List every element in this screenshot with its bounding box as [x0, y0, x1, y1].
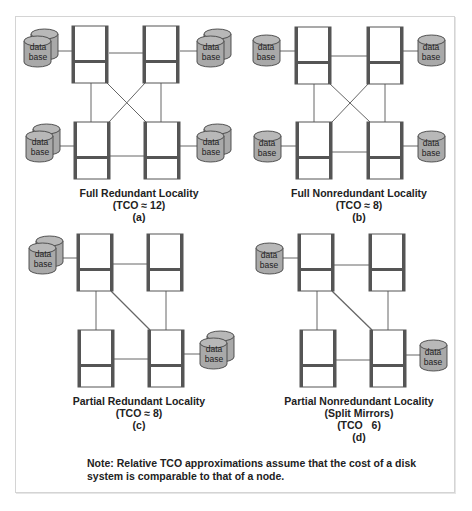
caption-b: Full Nonredundant Locality (TCO ≈ 8) (b) — [284, 187, 434, 223]
caption-subtitle: (Split Mirrors) — [284, 407, 434, 419]
svg-text:base: base — [258, 148, 277, 158]
node-icon — [370, 330, 406, 387]
svg-text:base: base — [422, 52, 441, 62]
footnote-line-2: system is comparable to that of a node. — [87, 470, 416, 483]
panel-a-databases — [24, 29, 231, 162]
svg-text:data: data — [32, 137, 49, 147]
panel-c-databases — [29, 236, 234, 369]
svg-text:base: base — [31, 147, 50, 157]
footnote: Note: Relative TCO approximations assume… — [87, 457, 416, 483]
svg-text:data: data — [258, 42, 275, 52]
node-icon — [369, 234, 405, 291]
node-icon — [147, 234, 183, 291]
svg-text:base: base — [34, 259, 53, 269]
node-icon — [367, 122, 403, 179]
panel-b-databases — [253, 35, 445, 162]
caption-title: Partial Nonredundant Locality — [284, 395, 434, 407]
svg-text:data: data — [206, 344, 223, 354]
node-icon — [77, 234, 113, 291]
caption-label: (c) — [64, 419, 214, 431]
svg-text:base: base — [29, 52, 48, 62]
footnote-line-1: Note: Relative TCO approximations assume… — [87, 457, 416, 470]
svg-text:data: data — [425, 347, 442, 357]
caption-title: Full Nonredundant Locality — [284, 187, 434, 199]
panel-b-nodes — [295, 27, 403, 179]
node-icon — [144, 122, 180, 179]
caption-title: Partial Redundant Locality — [64, 395, 214, 407]
node-icon — [143, 26, 179, 83]
caption-a: Full Redundant Locality (TCO ≈ 12) (a) — [64, 187, 214, 223]
node-icon — [74, 122, 110, 179]
caption-tco: (TCO ≈ 8) — [64, 407, 214, 419]
caption-title: Full Redundant Locality — [64, 187, 214, 199]
node-icon — [72, 26, 108, 83]
svg-text:base: base — [202, 147, 221, 157]
caption-label: (d) — [284, 431, 434, 443]
caption-d: Partial Nonredundant Locality (Split Mir… — [284, 395, 434, 443]
svg-text:data: data — [30, 42, 47, 52]
svg-text:base: base — [202, 52, 221, 62]
node-icon — [148, 330, 184, 387]
node-icon — [295, 27, 331, 84]
node-icon — [298, 234, 334, 291]
svg-text:data: data — [203, 42, 220, 52]
svg-text:base: base — [260, 260, 279, 270]
caption-c: Partial Redundant Locality (TCO ≈ 8) (c) — [64, 395, 214, 431]
svg-text:base: base — [422, 148, 441, 158]
caption-tco: (TCO ≈ 12) — [64, 199, 214, 211]
node-icon — [367, 27, 403, 84]
svg-text:data: data — [35, 249, 52, 259]
caption-tco: (TCO 6) — [284, 419, 434, 431]
svg-text:base: base — [205, 354, 224, 364]
caption-tco: (TCO ≈ 8) — [284, 199, 434, 211]
svg-text:data: data — [423, 42, 440, 52]
node-icon — [300, 330, 336, 387]
node-icon — [78, 330, 114, 387]
caption-label: (b) — [284, 211, 434, 223]
node-icon — [296, 122, 332, 179]
svg-text:data: data — [203, 137, 220, 147]
svg-text:base: base — [257, 52, 276, 62]
svg-text:data: data — [261, 250, 278, 260]
svg-text:base: base — [424, 357, 443, 367]
caption-label: (a) — [64, 211, 214, 223]
panel-d-databases — [256, 243, 447, 371]
svg-text:data: data — [423, 138, 440, 148]
svg-text:data: data — [259, 138, 276, 148]
